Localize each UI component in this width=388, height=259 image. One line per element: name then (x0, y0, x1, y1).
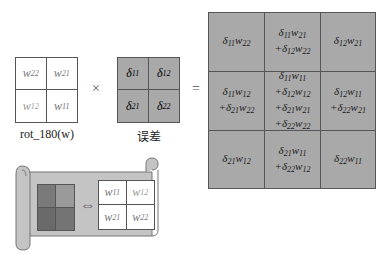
kernel-cell (56, 208, 74, 231)
matrix-cell: w22 (127, 205, 155, 229)
rot-180-w-matrix: w22 w21 w12 w11 (15, 57, 78, 123)
result-term: +δ22w12 (275, 160, 311, 176)
result-cell: δ12w21 (321, 13, 375, 72)
matrix-cell: w12 (16, 90, 47, 122)
matrix-cell: δ11 (118, 58, 149, 90)
result-cell: δ11w11+δ12w12+δ21w21+δ22w22 (265, 72, 321, 131)
matrix-cell: δ21 (118, 90, 149, 122)
result-cell: δ21w12 (209, 131, 265, 188)
result-term: δ11w21 (279, 26, 307, 42)
error-matrix: δ11 δ12 δ21 δ22 (117, 57, 180, 123)
result-term: +δ12w12 (275, 85, 311, 101)
result-matrix: δ11w22δ11w21+δ12w22δ12w21δ11w12+δ21w22δ1… (208, 12, 376, 189)
result-term: +δ22w21 (330, 101, 366, 117)
result-term: δ21w12 (222, 152, 250, 168)
result-term: δ11w12 (223, 85, 251, 101)
result-term: +δ21w22 (219, 101, 255, 117)
equals-symbol: = (192, 81, 200, 97)
matrix-cell: w12 (127, 181, 155, 205)
result-term: δ12w21 (334, 34, 362, 50)
result-term: δ21w11 (279, 144, 307, 160)
result-term: +δ21w21 (275, 101, 311, 117)
result-cell: δ11w12+δ21w22 (209, 72, 265, 131)
double-arrow-icon: ⇔ (80, 196, 96, 214)
result-term: δ22w11 (334, 152, 362, 168)
rot-matrix-caption: rot_180(w) (10, 127, 84, 142)
w-matrix: w11 w12 w21 w22 (98, 180, 155, 230)
kernel-cell (56, 185, 74, 208)
result-term: δ11w11 (279, 69, 306, 85)
result-cell: δ12w11+δ22w21 (321, 72, 375, 131)
multiply-symbol: × (92, 81, 100, 97)
matrix-cell: w22 (16, 58, 47, 90)
kernel-grid (37, 184, 75, 231)
result-term: δ12w11 (334, 85, 362, 101)
kernel-cell (38, 208, 56, 231)
matrix-cell: δ12 (149, 58, 180, 90)
kernel-cell (38, 185, 56, 208)
result-term: δ11w22 (223, 34, 251, 50)
result-cell: δ11w22 (209, 13, 265, 72)
result-cell: δ11w21+δ12w22 (265, 13, 321, 72)
result-cell: δ21w11+δ22w12 (265, 131, 321, 188)
matrix-cell: w11 (47, 90, 78, 122)
result-cell: δ22w11 (321, 131, 375, 188)
matrix-cell: w21 (99, 205, 127, 229)
matrix-cell: w21 (47, 58, 78, 90)
result-term: +δ12w22 (275, 42, 311, 58)
matrix-cell: w11 (99, 181, 127, 205)
error-matrix-caption: 误差 (117, 127, 180, 145)
matrix-cell: δ22 (149, 90, 180, 122)
